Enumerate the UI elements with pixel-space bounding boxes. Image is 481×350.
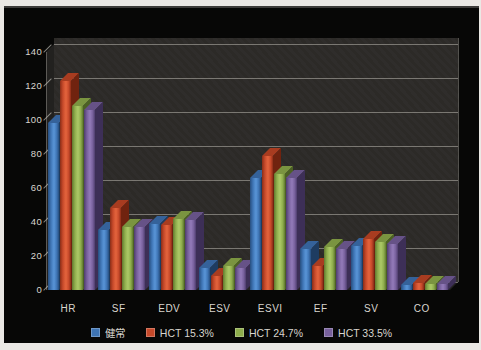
- legend: 健常HCT 15.3%HCT 24.7%HCT 33.5%: [4, 325, 479, 340]
- y-tick-label: 20: [4, 250, 42, 262]
- x-category-label: ESV: [194, 303, 246, 314]
- bar-CO: [425, 284, 436, 290]
- bar-SV: [387, 244, 398, 290]
- legend-swatch-icon: [146, 328, 155, 337]
- x-category-label: EDV: [143, 303, 195, 314]
- bar-ESVI: [250, 178, 261, 290]
- bar-ESV: [211, 276, 222, 290]
- bar-ESVI: [274, 174, 285, 290]
- bar-EF: [336, 249, 347, 290]
- bar-HR: [72, 106, 83, 290]
- y-axis-line: [46, 52, 47, 290]
- legend-label: HCT 33.5%: [338, 327, 392, 339]
- bar-EF: [312, 266, 323, 290]
- y-tick-label: 0: [4, 284, 42, 296]
- bar-EF: [300, 249, 311, 290]
- bar-SF: [134, 227, 145, 290]
- bar-EDV: [185, 220, 196, 290]
- gridline: [54, 112, 458, 113]
- x-category-label: CO: [396, 303, 448, 314]
- x-category-label: ESVI: [244, 303, 296, 314]
- legend-swatch-icon: [324, 328, 333, 337]
- legend-item: HCT 24.7%: [235, 327, 303, 339]
- bar-SV: [375, 242, 386, 290]
- bar-SV: [363, 239, 374, 290]
- bar-ESVI: [286, 178, 297, 290]
- bar-EF: [324, 247, 335, 290]
- bar-ESVI: [262, 156, 273, 290]
- bar-CO: [401, 285, 412, 290]
- bar-SV: [351, 246, 362, 290]
- y-tick-label: 60: [4, 182, 42, 194]
- y-tick-label: 140: [4, 46, 42, 58]
- chart-canvas: 140120100806040200 HRSFEDVESVESVIEFSVCO …: [4, 6, 479, 343]
- bar-HR: [84, 110, 95, 290]
- legend-label: 健常: [105, 325, 125, 340]
- x-category-label: HR: [42, 303, 94, 314]
- legend-label: HCT 24.7%: [249, 327, 303, 339]
- legend-item: HCT 33.5%: [324, 327, 392, 339]
- legend-swatch-icon: [91, 328, 100, 337]
- x-category-label: SV: [345, 303, 397, 314]
- bar-SF: [98, 230, 109, 290]
- bar-HR: [60, 81, 71, 290]
- bar-EDV: [161, 225, 172, 290]
- gridline: [54, 78, 458, 79]
- bar-CO: [413, 283, 424, 290]
- bar-ESV: [223, 266, 234, 290]
- y-tick-label: 40: [4, 216, 42, 228]
- figure-page: 140120100806040200 HRSFEDVESVESVIEFSVCO …: [0, 0, 481, 350]
- legend-item: 健常: [91, 325, 125, 340]
- bar-SF: [122, 227, 133, 290]
- legend-swatch-icon: [235, 328, 244, 337]
- gridline: [54, 146, 458, 147]
- bar-ESV: [199, 268, 210, 290]
- bar-EDV: [173, 219, 184, 290]
- gridline: [54, 44, 458, 45]
- bar-CO: [437, 284, 448, 290]
- bar-ESV: [235, 268, 246, 290]
- bar-EDV: [149, 224, 160, 290]
- y-tick-label: 100: [4, 114, 42, 126]
- bar-SF: [110, 208, 121, 290]
- legend-label: HCT 15.3%: [160, 327, 214, 339]
- y-tick-label: 120: [4, 80, 42, 92]
- y-tick-label: 80: [4, 148, 42, 160]
- x-category-label: EF: [295, 303, 347, 314]
- legend-item: HCT 15.3%: [146, 327, 214, 339]
- bar-HR: [48, 123, 59, 290]
- x-category-label: SF: [93, 303, 145, 314]
